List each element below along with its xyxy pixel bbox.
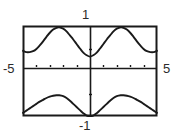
y-axis	[89, 27, 92, 115]
graph-figure: 1 -1 -5 5	[0, 0, 180, 138]
plot-canvas	[0, 0, 180, 138]
